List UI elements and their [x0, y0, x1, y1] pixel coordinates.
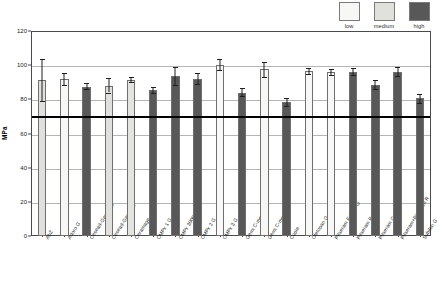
error-cap-lower — [62, 85, 67, 86]
error-bar — [175, 67, 176, 85]
error-cap-upper — [195, 73, 200, 74]
bar-group — [327, 31, 336, 236]
legend-swatch-medium — [374, 2, 395, 21]
error-bar — [286, 98, 287, 107]
bar[interactable] — [349, 72, 358, 236]
bar-group — [171, 31, 180, 236]
error-cap-lower — [373, 89, 378, 90]
error-bar — [397, 67, 398, 76]
bar[interactable] — [282, 102, 291, 236]
bar[interactable] — [105, 86, 114, 236]
bar[interactable] — [216, 65, 225, 236]
bar-group — [216, 31, 225, 236]
y-axis-tick-label: 100 — [17, 62, 27, 68]
error-cap-upper — [395, 67, 400, 68]
error-bar — [64, 73, 65, 85]
bar[interactable] — [305, 71, 314, 236]
bar[interactable] — [127, 80, 136, 236]
y-axis-tick-label: 40 — [20, 165, 27, 171]
x-axis: AbZAdoro GCesead-Gama HVCesead-Gama LVCe… — [31, 237, 431, 294]
error-cap-lower — [106, 93, 111, 94]
error-cap-lower — [417, 103, 422, 104]
chart-legend: low medium high — [336, 2, 432, 30]
error-bar — [153, 87, 154, 94]
bar[interactable] — [371, 85, 380, 236]
legend-swatch-high — [409, 2, 430, 21]
y-axis-tick-label: 60 — [20, 131, 27, 137]
error-cap-lower — [195, 84, 200, 85]
bar[interactable] — [393, 72, 402, 236]
y-axis-tick-label: 0 — [24, 233, 27, 239]
y-axis-tick-label: 120 — [17, 28, 27, 34]
bar[interactable] — [171, 76, 180, 236]
error-cap-upper — [284, 98, 289, 99]
y-axis-tick-label: 20 — [20, 199, 27, 205]
error-cap-lower — [329, 75, 334, 76]
error-cap-lower — [262, 77, 267, 78]
error-cap-lower — [306, 74, 311, 75]
legend-item-medium: medium — [371, 2, 397, 30]
bar-group — [82, 31, 91, 236]
error-cap-lower — [129, 82, 134, 83]
legend-label-low: low — [345, 23, 354, 30]
error-cap-lower — [151, 93, 156, 94]
error-cap-upper — [262, 62, 267, 63]
error-cap-upper — [373, 80, 378, 81]
error-cap-upper — [62, 73, 67, 74]
error-bar — [242, 88, 243, 96]
error-cap-upper — [129, 77, 134, 78]
error-cap-upper — [151, 87, 156, 88]
error-cap-lower — [173, 85, 178, 86]
error-cap-lower — [284, 106, 289, 107]
bar[interactable] — [38, 80, 47, 236]
bar-group — [282, 31, 291, 236]
legend-swatch-low — [339, 2, 360, 21]
legend-label-high: high — [414, 23, 425, 30]
bar[interactable] — [193, 79, 202, 236]
legend-label-medium: medium — [374, 23, 395, 30]
bar-group — [238, 31, 247, 236]
legend-item-high: high — [406, 2, 432, 30]
bar-group — [393, 31, 402, 236]
bar[interactable] — [149, 90, 158, 236]
error-bar — [42, 59, 43, 101]
error-cap-upper — [84, 83, 89, 84]
error-cap-lower — [240, 96, 245, 97]
bar-group — [193, 31, 202, 236]
bars-layer — [31, 31, 431, 236]
error-bar — [108, 78, 109, 93]
bar-group — [349, 31, 358, 236]
bar[interactable] — [238, 93, 247, 237]
bar-group — [149, 31, 158, 236]
error-bar — [264, 62, 265, 77]
y-axis-title: MPa — [1, 126, 8, 140]
error-bar — [197, 73, 198, 84]
bar-group — [416, 31, 425, 236]
error-cap-upper — [351, 68, 356, 69]
error-cap-lower — [351, 75, 356, 76]
error-bar — [353, 68, 354, 76]
error-cap-upper — [173, 67, 178, 68]
error-cap-upper — [329, 69, 334, 70]
reference-line — [32, 116, 430, 118]
error-cap-upper — [240, 88, 245, 89]
bar-group — [305, 31, 314, 236]
bar-group — [127, 31, 136, 236]
error-cap-upper — [40, 59, 45, 60]
bar[interactable] — [327, 72, 336, 236]
error-bar — [375, 80, 376, 89]
error-cap-lower — [217, 70, 222, 71]
bar[interactable] — [82, 87, 91, 236]
bar-group — [260, 31, 269, 236]
error-bar — [219, 59, 220, 70]
bar[interactable] — [60, 79, 69, 236]
legend-item-low: low — [336, 2, 362, 30]
bar-group — [105, 31, 114, 236]
error-bar — [419, 94, 420, 103]
bar[interactable] — [416, 98, 425, 236]
bar-group — [60, 31, 69, 236]
bar[interactable] — [260, 69, 269, 236]
error-cap-upper — [217, 59, 222, 60]
bar-group — [38, 31, 47, 236]
